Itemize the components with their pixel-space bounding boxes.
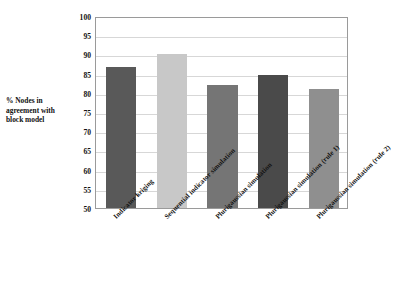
gridline: [96, 56, 347, 57]
y-axis-title: % Nodes in agreement with block model: [6, 96, 80, 125]
y-axis-tick-label: 60: [72, 166, 91, 175]
bar[interactable]: [207, 85, 237, 208]
gridline: [96, 37, 347, 38]
y-axis-tick-label: 90: [72, 51, 91, 60]
y-axis-tick-label: 100: [72, 13, 91, 22]
y-axis-title-line-2: agreement with: [6, 106, 80, 116]
y-axis-tick-label: 75: [72, 109, 91, 118]
y-axis-tick-label: 95: [72, 32, 91, 41]
y-axis-title-line-3: block model: [6, 115, 80, 125]
y-axis-tick-label: 65: [72, 147, 91, 156]
y-axis-tick-label: 70: [72, 128, 91, 137]
y-axis-tick-label: 80: [72, 89, 91, 98]
bar[interactable]: [258, 75, 288, 208]
bar[interactable]: [157, 54, 187, 208]
y-axis-tick-label: 50: [72, 205, 91, 214]
y-axis-tick-label: 85: [72, 70, 91, 79]
y-axis-tick-label: 55: [72, 185, 91, 194]
y-axis-title-line-1: % Nodes in: [6, 96, 80, 106]
bar-chart-figure: % Nodes in agreement with block model 50…: [0, 0, 404, 297]
bar[interactable]: [106, 67, 136, 208]
